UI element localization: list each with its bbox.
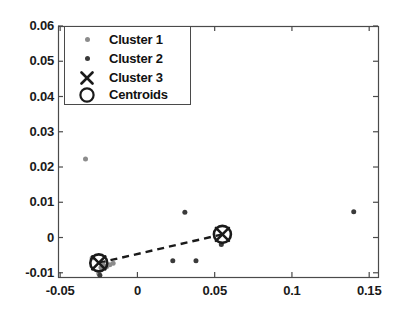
small-dark-dot-icon — [65, 56, 109, 61]
x-tick-label: 0.05 — [175, 283, 255, 298]
plot-canvas — [0, 0, 408, 316]
x-cross-icon — [65, 71, 109, 85]
legend-entry-centroids: Centroids — [65, 85, 190, 104]
x-tick-label: 0 — [97, 283, 177, 298]
y-tick-label: -0.01 — [25, 265, 54, 280]
x-tick-label: 0.15 — [329, 283, 408, 298]
legend-entry-cluster-1: Cluster 1 — [65, 30, 190, 49]
x-tick-label: -0.05 — [20, 283, 100, 298]
legend-entry-cluster-2: Cluster 2 — [65, 49, 190, 68]
legend-label: Cluster 1 — [109, 32, 163, 47]
y-tick-label: 0.01 — [29, 194, 54, 209]
small-gray-dot-icon — [65, 37, 109, 42]
y-tick-label: 0 — [47, 230, 54, 245]
series-cluster-2 — [97, 209, 356, 277]
y-tick-label: 0.06 — [29, 18, 54, 33]
scatter-plot-figure: -0.0100.010.020.030.040.050.06 -0.0500.0… — [0, 0, 408, 316]
x-tick-label: 0.1 — [252, 283, 332, 298]
open-circle-icon — [65, 86, 109, 104]
data-points — [83, 156, 356, 277]
y-tick-label: 0.04 — [29, 89, 54, 104]
legend-label: Cluster 2 — [109, 51, 163, 66]
legend-label: Cluster 3 — [109, 70, 163, 85]
legend-label: Centroids — [109, 87, 168, 102]
y-tick-label: 0.02 — [29, 159, 54, 174]
legend: Cluster 1Cluster 2Cluster 3Centroids — [64, 26, 191, 105]
centroid-connector-line — [99, 234, 223, 263]
y-tick-label: 0.05 — [29, 53, 54, 68]
y-tick-label: 0.03 — [29, 124, 54, 139]
series-cluster-1 — [83, 156, 116, 276]
